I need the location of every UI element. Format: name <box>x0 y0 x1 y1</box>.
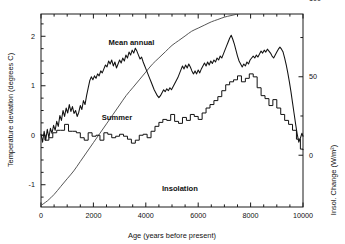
y-tick-label-right: 0 <box>309 151 313 160</box>
y-tick-label-left: 2 <box>31 32 35 41</box>
x-tick-label: 0 <box>39 211 43 220</box>
series-label-mean-annual: Mean annual <box>108 38 154 47</box>
x-tick-label: 8000 <box>243 211 259 220</box>
chart-figure: 0200040006000800010000 -1012 050100 Mean… <box>0 0 345 244</box>
x-tick-label: 2000 <box>85 211 101 220</box>
y-tick-label-right: 100 <box>309 0 321 3</box>
x-tick-label: 4000 <box>138 211 154 220</box>
series-label-insolation: Insolation <box>162 184 198 193</box>
y-tick-label-right: 50 <box>309 72 317 81</box>
x-tick-label: 6000 <box>190 211 206 220</box>
x-axis-title: Age (years before present) <box>128 231 216 240</box>
y-axis-title-right: Insol. Change (W/m²) <box>329 145 338 215</box>
x-tick-label: 10000 <box>293 211 313 220</box>
series-label-summer: Summer <box>102 113 132 122</box>
y-tick-label-left: 0 <box>31 131 35 140</box>
y-tick-label-left: 1 <box>31 81 35 90</box>
paleoclimate-line-chart: 0200040006000800010000 -1012 050100 Mean… <box>0 0 345 244</box>
y-tick-label-left: -1 <box>29 180 35 189</box>
y-axis-title-left: Temperature deviation (degrees C) <box>6 53 15 167</box>
